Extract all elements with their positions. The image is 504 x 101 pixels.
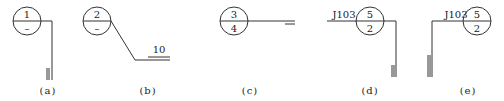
caption-e: (e) <box>460 85 477 96</box>
diagram-c: 3 4 (c) <box>220 7 295 96</box>
leader-line <box>111 21 135 60</box>
circle-top-number: 2 <box>94 9 100 20</box>
circle-top-number: 1 <box>24 9 30 20</box>
caption-d: (d) <box>361 85 378 96</box>
diagram-d: J103 5 2 (d) <box>327 7 396 96</box>
diagram-a: 1 – (a) <box>13 7 56 96</box>
detail-symbols-diagram: 1 – (a) 2 – 10 (b) 3 4 (c) J103 5 2 (d <box>0 0 504 101</box>
diagram-e: J103 5 2 (e) <box>428 7 491 96</box>
caption-a: (a) <box>40 85 57 96</box>
circle-bottom-number: – <box>95 23 100 34</box>
diagram-b: 2 – 10 (b) <box>83 7 170 96</box>
circle-top-number: 3 <box>231 9 237 20</box>
circle-bottom-number: 4 <box>231 23 237 34</box>
label-j103: J103 <box>331 9 355 20</box>
caption-b: (b) <box>139 85 156 96</box>
label-10: 10 <box>153 44 166 55</box>
circle-top-number: 5 <box>474 9 480 20</box>
caption-c: (c) <box>242 85 258 96</box>
label-j103: J103 <box>443 9 467 20</box>
circle-top-number: 5 <box>367 9 373 20</box>
circle-bottom-number: 2 <box>474 23 480 34</box>
circle-bottom-number: – <box>25 23 30 34</box>
circle-bottom-number: 2 <box>367 23 373 34</box>
